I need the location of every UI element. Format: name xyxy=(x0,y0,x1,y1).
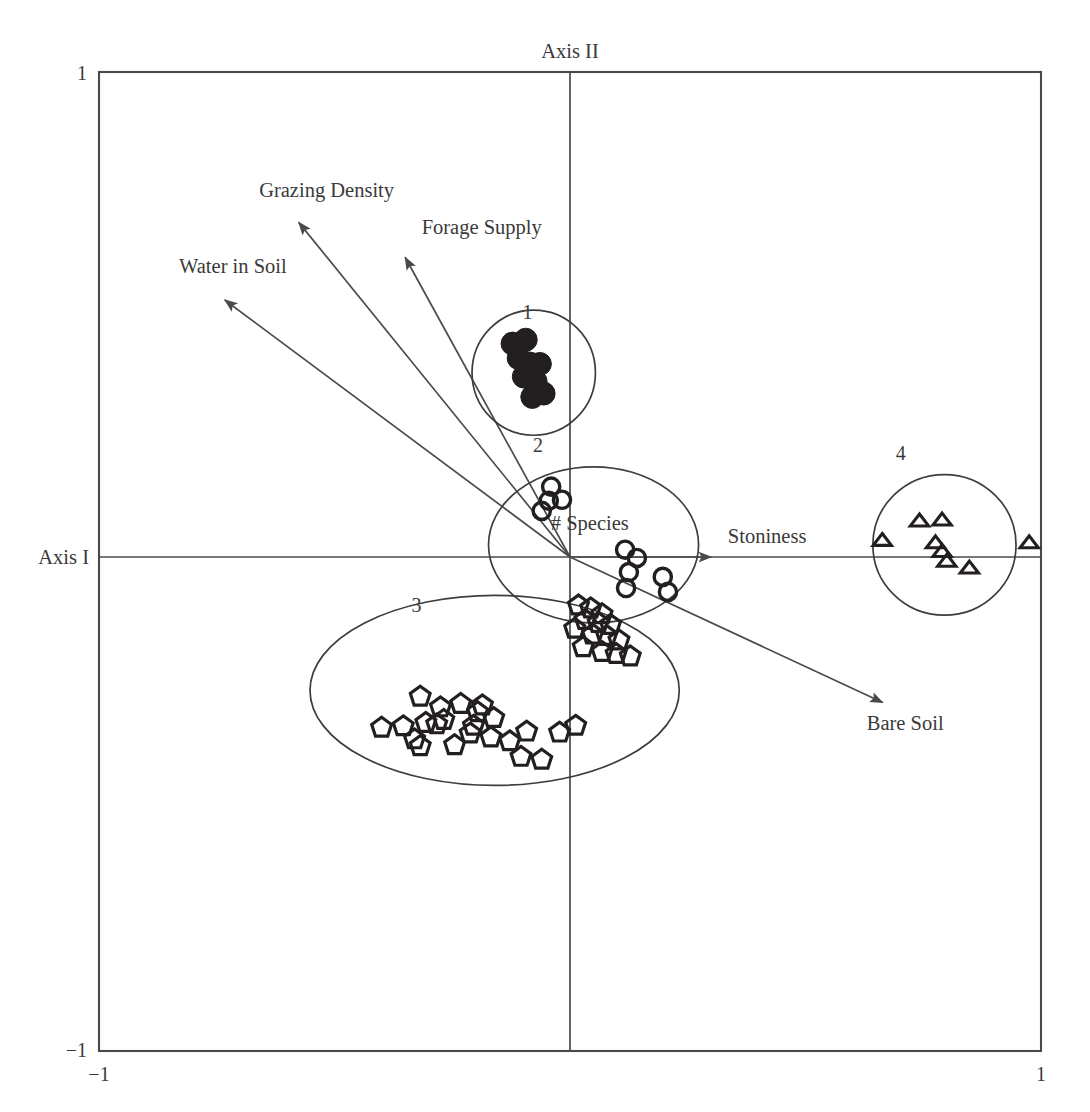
data-point-group-3 xyxy=(573,637,593,656)
axis-ii-label: Axis II xyxy=(541,40,599,62)
y-tick-bottom: −1 xyxy=(66,1039,87,1061)
data-point-group-3 xyxy=(372,717,392,736)
data-point-group-4 xyxy=(933,513,951,525)
vector-arrow-forage-supply xyxy=(405,257,570,557)
data-point-group-3 xyxy=(481,727,501,746)
vector-label-stoniness: Stoniness xyxy=(728,525,807,547)
vector-label-forage-supply: Forage Supply xyxy=(422,216,543,239)
data-point-group-2 xyxy=(620,563,637,580)
group-label-3: 3 xyxy=(411,594,421,616)
data-point-group-3 xyxy=(410,686,430,705)
data-point-group-2 xyxy=(659,583,676,600)
x-tick-left: −1 xyxy=(88,1063,109,1085)
group-hull-3 xyxy=(310,595,679,785)
data-point-group-4 xyxy=(1020,536,1038,548)
ordination-plot: Axis IIAxis I1−1−11Grazing DensityForage… xyxy=(0,0,1090,1112)
y-tick-top: 1 xyxy=(77,62,87,84)
data-point-group-3 xyxy=(517,721,537,740)
data-point-group-3 xyxy=(500,731,520,750)
vector-label-water-in-soil: Water in Soil xyxy=(179,255,287,277)
vector-label-bare-soil: Bare Soil xyxy=(867,712,944,734)
ordination-figure: Axis IIAxis I1−1−11Grazing DensityForage… xyxy=(0,0,1090,1112)
species-centroid-label: # Species xyxy=(551,512,629,535)
data-point-group-4 xyxy=(960,561,978,573)
group-hull-4 xyxy=(873,475,1016,616)
data-point-group-4 xyxy=(873,533,891,545)
data-point-group-4 xyxy=(910,514,928,526)
data-point-group-2 xyxy=(617,579,634,596)
vector-label-grazing-density: Grazing Density xyxy=(259,179,395,202)
data-point-group-1 xyxy=(532,382,555,405)
axis-i-label: Axis I xyxy=(38,546,89,568)
group-label-2: 2 xyxy=(533,434,543,456)
data-point-group-3 xyxy=(566,715,586,734)
data-point-group-3 xyxy=(532,749,552,768)
group-label-1: 1 xyxy=(523,301,533,323)
group-label-4: 4 xyxy=(896,442,906,464)
x-tick-right: 1 xyxy=(1036,1063,1046,1085)
